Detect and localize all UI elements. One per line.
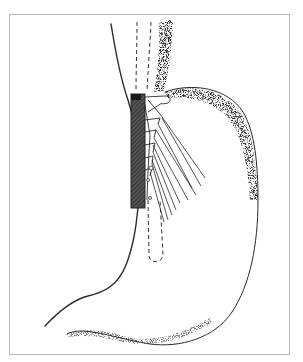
cartridge-top (131, 94, 141, 100)
staple-cartridge (131, 94, 145, 208)
esophagus-stipple (154, 19, 173, 92)
lesser-curvature-line (45, 24, 139, 326)
stomach-diagram (0, 0, 303, 362)
suture-threads (150, 114, 205, 222)
